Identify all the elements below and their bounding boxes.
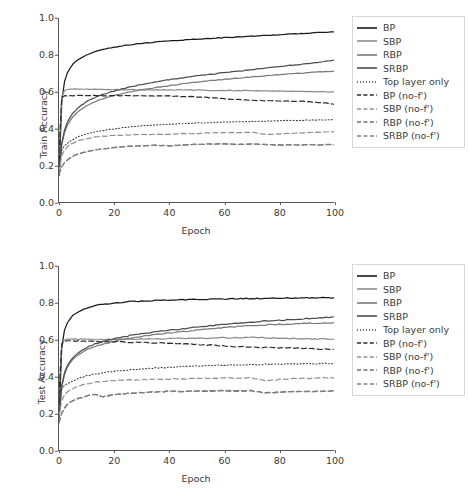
y-tick-mark (55, 377, 58, 378)
legend-item-srbp[interactable]: SRBP (356, 62, 460, 76)
legend-label: RBP (no-f') (383, 366, 434, 376)
x-tick-test-0: 0 (56, 456, 62, 466)
legend-line-sample-icon (356, 365, 378, 375)
legend-label: BP (383, 271, 395, 281)
legend-line-sample-icon (356, 311, 378, 321)
legend-item-rbp-no-f[interactable]: RBP (no-f') (356, 116, 460, 130)
series-line-bp (59, 297, 334, 417)
y-tick-train-4: 0.8 (39, 50, 54, 60)
y-tick-mark (55, 266, 58, 267)
legend-label: Top layer only (383, 325, 449, 335)
series-line-rbp-no-f (59, 144, 334, 175)
x-tick-train-4: 80 (274, 208, 286, 218)
legend-item-sbp-no-f[interactable]: SBP (no-f') (356, 102, 460, 116)
legend-item-top-layer-only[interactable]: Top layer only (356, 75, 460, 89)
legend-item-rbp[interactable]: RBP (356, 48, 460, 62)
y-tick-mark (55, 414, 58, 415)
x-tick-train-3: 60 (219, 208, 231, 218)
y-tick-test-0: 0.0 (39, 446, 54, 456)
x-tick-test-4: 80 (274, 456, 286, 466)
legend-item-srbp[interactable]: SRBP (356, 310, 460, 324)
test-curves-svg (59, 266, 334, 450)
y-tick-test-2: 0.4 (39, 372, 54, 382)
y-tick-test-1: 0.2 (39, 409, 54, 419)
y-tick-mark (55, 166, 58, 167)
legend-label: SBP (no-f') (383, 352, 433, 362)
series-line-top-layer-only (59, 363, 334, 395)
legend-label: Top layer only (383, 77, 449, 87)
legend-line-sample-icon (356, 325, 378, 335)
legend-label: RBP (383, 50, 402, 60)
legend-line-sample-icon (356, 284, 378, 294)
x-tick-mark (59, 450, 60, 453)
x-axis-label-test: Epoch (181, 473, 210, 484)
x-tick-mark (335, 202, 336, 205)
legend-line-sample-icon (356, 131, 378, 141)
y-tick-test-4: 0.8 (39, 298, 54, 308)
x-tick-train-2: 40 (163, 208, 175, 218)
y-tick-mark (55, 92, 58, 93)
legend-line-sample-icon (356, 90, 378, 100)
legend-label: SRBP (no-f') (383, 131, 440, 141)
legend-label: RBP (383, 298, 402, 308)
series-line-sbp-no-f (59, 132, 334, 172)
legend-item-bp-no-f[interactable]: BP (no-f') (356, 89, 460, 103)
y-tick-train-3: 0.6 (39, 87, 54, 97)
x-tick-mark (59, 202, 60, 205)
legend-label: SBP (383, 37, 401, 47)
legend-line-sample-icon (356, 379, 378, 389)
train-curves-svg (59, 18, 334, 202)
y-tick-mark (55, 18, 58, 19)
x-tick-mark (169, 202, 170, 205)
plot-area-train: 0.00.20.40.60.81.0020406080100 (58, 18, 334, 203)
x-tick-test-2: 40 (163, 456, 175, 466)
legend-train: BPSBPRBPSRBPTop layer onlyBP (no-f')SBP … (352, 16, 465, 148)
legend-line-sample-icon (356, 104, 378, 114)
x-tick-mark (280, 202, 281, 205)
y-tick-train-5: 1.0 (39, 13, 54, 23)
x-tick-train-1: 20 (108, 208, 120, 218)
legend-item-rbp[interactable]: RBP (356, 296, 460, 310)
plot-area-test: 0.00.20.40.60.81.0020406080100 (58, 266, 334, 451)
x-tick-mark (225, 202, 226, 205)
legend-item-bp[interactable]: BP (356, 269, 460, 283)
series-line-bp (59, 32, 334, 176)
legend-item-sbp[interactable]: SBP (356, 283, 460, 297)
y-tick-train-0: 0.0 (39, 198, 54, 208)
legend-item-bp-no-f[interactable]: BP (no-f') (356, 337, 460, 351)
legend-line-sample-icon (356, 298, 378, 308)
legend-line-sample-icon (356, 338, 378, 348)
series-line-srbp-no-f (59, 144, 334, 175)
x-tick-mark (225, 450, 226, 453)
y-tick-test-3: 0.6 (39, 335, 54, 345)
y-tick-mark (55, 129, 58, 130)
y-tick-train-1: 0.2 (39, 161, 54, 171)
series-line-rbp (59, 71, 334, 175)
x-tick-train-0: 0 (56, 208, 62, 218)
legend-item-sbp[interactable]: SBP (356, 35, 460, 49)
legend-label: SRBP (383, 64, 408, 74)
legend-label: SRBP (383, 312, 408, 322)
legend-item-srbp-no-f[interactable]: SRBP (no-f') (356, 377, 460, 391)
series-line-srbp (59, 317, 334, 418)
legend-label: BP (no-f') (383, 91, 427, 101)
x-axis-label-train: Epoch (181, 225, 210, 236)
x-tick-test-5: 100 (326, 456, 344, 466)
legend-line-sample-icon (356, 36, 378, 46)
series-line-rbp-no-f (59, 390, 334, 422)
x-tick-mark (114, 202, 115, 205)
y-tick-mark (55, 303, 58, 304)
legend-item-sbp-no-f[interactable]: SBP (no-f') (356, 350, 460, 364)
legend-item-bp[interactable]: BP (356, 21, 460, 35)
legend-label: RBP (no-f') (383, 118, 434, 128)
y-tick-test-5: 1.0 (39, 261, 54, 271)
y-tick-mark (55, 203, 58, 204)
legend-item-rbp-no-f[interactable]: RBP (no-f') (356, 364, 460, 378)
legend-item-srbp-no-f[interactable]: SRBP (no-f') (356, 129, 460, 143)
legend-item-top-layer-only[interactable]: Top layer only (356, 323, 460, 337)
legend-label: BP (no-f') (383, 339, 427, 349)
legend-label: SRBP (no-f') (383, 379, 440, 389)
legend-label: BP (383, 23, 395, 33)
legend-label: SBP (no-f') (383, 104, 433, 114)
legend-line-sample-icon (356, 63, 378, 73)
